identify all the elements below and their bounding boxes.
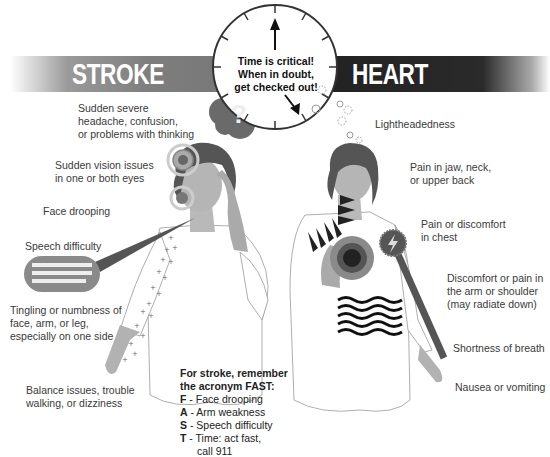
fast-item-t: T - Time: act fast, xyxy=(180,432,288,445)
label-line: Speech difficulty xyxy=(25,240,101,253)
fast-item-f: F - Face drooping xyxy=(180,393,288,406)
svg-text:+: + xyxy=(168,258,174,266)
svg-text:+: + xyxy=(160,256,166,264)
fast-text: - Arm weakness xyxy=(188,406,266,418)
label-line: or problems with thinking xyxy=(78,128,194,141)
svg-text:+: + xyxy=(164,246,170,254)
fast-letter: A xyxy=(180,406,188,418)
fast-item-s: S - Speech difficulty xyxy=(180,419,288,432)
label-line: the arm or shoulder xyxy=(447,285,543,298)
clock-line-3: get checked out! xyxy=(220,81,332,94)
label-line: Balance issues, trouble xyxy=(26,384,135,397)
vision-issue-icon xyxy=(168,145,198,175)
heart-symptom-jaw: Pain in jaw, neck, or upper back xyxy=(410,161,491,187)
svg-text:+: + xyxy=(134,322,140,330)
heart-symptom-breath: Shortness of breath xyxy=(453,342,545,355)
label-line: Face drooping xyxy=(43,205,110,218)
label-line: (may radiate down) xyxy=(447,298,543,311)
heart-symptom-arm: Discomfort or pain in the arm or shoulde… xyxy=(447,272,543,311)
stroke-symptom-face: Face drooping xyxy=(43,205,110,218)
stroke-symptom-tingling: Tingling or numbness of face, arm, or le… xyxy=(10,304,122,343)
fast-letter: S xyxy=(180,419,187,431)
fast-item-a: A - Arm weakness xyxy=(180,406,288,419)
svg-text:+: + xyxy=(168,234,174,242)
stroke-symptom-balance: Balance issues, trouble walking, or dizz… xyxy=(26,384,135,410)
fast-title-2: the acronym FAST: xyxy=(180,380,288,393)
label-line: walking, or dizziness xyxy=(26,397,135,410)
svg-text:+: + xyxy=(156,290,162,298)
label-line: or upper back xyxy=(410,174,491,187)
svg-text:+: + xyxy=(140,308,146,316)
clock-message: Time is critical! When in doubt, get che… xyxy=(220,55,332,94)
fast-text: - Time: act fast, xyxy=(186,432,261,444)
clock-line-1: Time is critical! xyxy=(220,55,332,68)
svg-text:+: + xyxy=(128,340,134,348)
stroke-symptom-speech: Speech difficulty xyxy=(25,240,101,253)
label-line: face, arm, or leg, xyxy=(10,317,122,330)
label-line: Lightheadedness xyxy=(375,118,455,131)
svg-text:+: + xyxy=(146,300,152,308)
fast-acronym-box: For stroke, remember the acronym FAST: F… xyxy=(180,367,288,457)
heart-symptom-nausea: Nausea or vomiting xyxy=(455,381,545,394)
fast-text: - Face drooping xyxy=(186,393,262,405)
label-line: headache, confusion, xyxy=(78,115,194,128)
stroke-symptom-headache: Sudden severe headache, confusion, or pr… xyxy=(78,102,194,141)
fast-text: - Speech difficulty xyxy=(187,419,273,431)
heart-symptom-chest: Pain or discomfort in chest xyxy=(421,218,506,244)
fast-continuation: call 911 xyxy=(180,445,288,457)
svg-text:+: + xyxy=(172,244,178,252)
label-line: especially on one side xyxy=(10,330,122,343)
label-line: Nausea or vomiting xyxy=(455,381,545,394)
question-mark-icon: ? xyxy=(231,99,247,130)
label-line: Sudden severe xyxy=(78,102,194,115)
svg-text:+: + xyxy=(132,350,138,358)
label-line: in chest xyxy=(421,231,506,244)
label-line: Sudden vision issues xyxy=(55,159,154,172)
heart-symptom-lightheadedness: Lightheadedness xyxy=(375,118,455,131)
label-line: Pain in jaw, neck, xyxy=(410,161,491,174)
svg-text:+: + xyxy=(162,274,168,282)
stroke-symptom-vision: Sudden vision issues in one or both eyes xyxy=(55,159,154,185)
fast-title-1: For stroke, remember xyxy=(180,367,288,380)
label-line: Pain or discomfort xyxy=(421,218,506,231)
svg-text:+: + xyxy=(148,312,154,320)
label-line: Shortness of breath xyxy=(453,342,545,355)
label-line: Tingling or numbness of xyxy=(10,304,122,317)
svg-text:+: + xyxy=(122,356,128,364)
clock-line-2: When in doubt, xyxy=(220,68,332,81)
label-line: Discomfort or pain in xyxy=(447,272,543,285)
svg-text:+: + xyxy=(140,332,146,340)
label-line: in one or both eyes xyxy=(55,172,154,185)
